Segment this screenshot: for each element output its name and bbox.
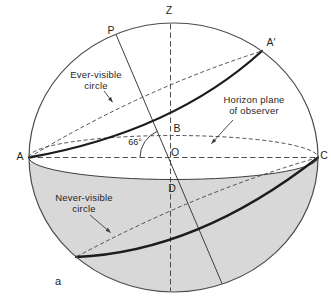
center-o-label: O xyxy=(171,147,179,158)
celestial-pole-label: P xyxy=(107,25,114,36)
ever-visible-annotation-line1: Ever-visible xyxy=(70,70,122,81)
a-prime-label: A′ xyxy=(267,37,276,48)
never-visible-annotation: Never-visible circle xyxy=(55,193,113,214)
subfigure-caption: a xyxy=(55,276,61,287)
never-visible-annotation-line1: Never-visible xyxy=(55,193,113,204)
never-visible-annotation-line2: circle xyxy=(55,204,113,215)
horizon-plane-annotation-line2: of observer xyxy=(223,106,284,117)
zenith-label: Z xyxy=(166,5,172,16)
horizon-plane-annotation: Horizon plane of observer xyxy=(223,95,284,116)
horizon-plane-arrow xyxy=(212,120,234,144)
ever-visible-arrow xyxy=(104,91,113,102)
c-label: C xyxy=(320,150,328,161)
diagram-canvas xyxy=(0,0,331,308)
d-label: D xyxy=(168,183,176,194)
horizon-plane-annotation-line1: Horizon plane xyxy=(223,95,284,106)
celestial-sphere-figure: Z P A′ A B O C D 66° Ever-visible circle… xyxy=(0,0,331,308)
below-horizon-shading xyxy=(29,158,318,293)
latitude-angle-arc xyxy=(140,131,157,157)
latitude-angle-label: 66° xyxy=(128,138,142,147)
a-label: A xyxy=(16,151,23,162)
ever-visible-annotation: Ever-visible circle xyxy=(70,70,122,91)
ever-visible-annotation-line2: circle xyxy=(70,81,122,92)
b-label: B xyxy=(173,123,180,134)
